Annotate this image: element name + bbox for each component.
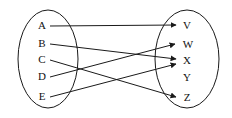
mapping-diagram-figure: A B C D E V W X Y Z [0,0,232,118]
edge-b-x [50,44,176,59]
node-label-x: X [183,54,191,66]
node-label-z: Z [184,91,191,103]
node-label-w: W [183,38,194,50]
node-label-d: D [38,70,46,82]
node-label-a: A [38,19,46,31]
node-label-y: Y [183,71,191,83]
edge-e-x [50,64,176,97]
domain-node-labels: A B C D E [38,19,46,102]
diagram-canvas: A B C D E V W X Y Z [0,0,232,118]
node-label-c: C [38,53,45,65]
node-label-b: B [38,37,45,49]
node-label-e: E [39,90,46,102]
domain-ellipse [18,10,78,108]
codomain-node-labels: V W X Y Z [183,19,194,103]
node-label-v: V [183,19,191,31]
edge-a-v [50,25,176,26]
edges-group [50,25,176,97]
